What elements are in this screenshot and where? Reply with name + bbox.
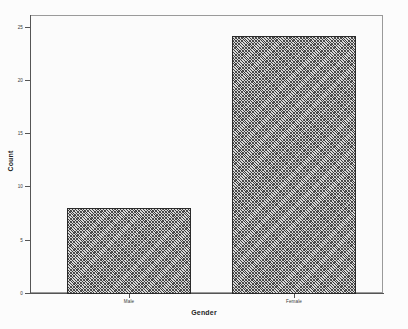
- x-tick-label-female: Female: [264, 299, 324, 304]
- y-tick-mark-20: [25, 80, 30, 81]
- x-tick-mark-male: [129, 294, 130, 298]
- chart-screenshot: 0 5 10 15 20 25 Male Female Gender Count: [0, 0, 408, 329]
- y-tick-label-20: 20: [0, 76, 25, 84]
- y-tick-label-0: 0: [0, 289, 25, 297]
- y-tick-mark-0: [25, 293, 30, 294]
- y-tick-label-5: 5: [0, 236, 25, 244]
- x-tick-label-male: Male: [99, 299, 159, 304]
- y-axis-title: Count: [7, 150, 14, 171]
- y-tick-mark-5: [25, 240, 30, 241]
- bar-female: [232, 36, 356, 294]
- y-tick-label-25: 25: [0, 23, 25, 31]
- y-axis-line: [30, 15, 31, 294]
- bar-male: [67, 208, 191, 294]
- y-tick-mark-10: [25, 186, 30, 187]
- y-axis-title-wrap: Count: [3, 131, 17, 191]
- x-axis-title: Gender: [0, 309, 408, 316]
- y-tick-mark-15: [25, 133, 30, 134]
- x-tick-mark-female: [294, 294, 295, 298]
- y-tick-mark-25: [25, 27, 30, 28]
